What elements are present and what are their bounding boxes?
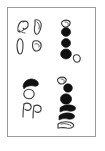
- looped-tail-outline: [23, 103, 31, 117]
- open-circle-outline: [24, 89, 34, 99]
- filled-comma-tail: [59, 113, 75, 120]
- rounded-blob-outline: [33, 41, 42, 51]
- filled-specimen-column-lower-right: [54, 72, 90, 134]
- plate-inner: [8, 8, 95, 136]
- filled-round-dot-large: [61, 49, 72, 59]
- small-comma-outline: [58, 77, 67, 84]
- figure-panel: [0, 0, 105, 151]
- filled-round-dot: [61, 28, 70, 37]
- plate-frame: [7, 7, 96, 137]
- looped-tail-outline: [33, 105, 41, 118]
- hooked-comma-outline: [34, 20, 41, 34]
- filled-comma-tail: [60, 105, 76, 112]
- hooked-comma-outline: [18, 21, 28, 33]
- outlined-specimen-cluster-lower-left: [16, 76, 52, 126]
- filled-round-dot: [61, 39, 70, 48]
- elongated-teardrop-outline: [17, 39, 23, 54]
- filled-round-dot: [64, 84, 73, 92]
- outlined-comma-tail: [58, 122, 74, 128]
- filled-specimen-column-upper-right: [56, 14, 90, 68]
- filled-crescent-cap: [23, 79, 38, 89]
- small-circle-outline: [73, 55, 80, 62]
- outlined-specimen-cluster-upper-left: [14, 16, 50, 66]
- small-comma-outline: [62, 20, 71, 27]
- filled-round-dot-large: [60, 94, 71, 104]
